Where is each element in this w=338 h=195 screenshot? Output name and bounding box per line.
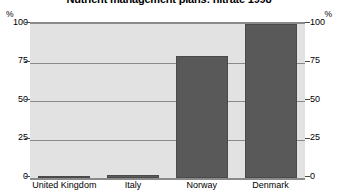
bar-italy [107,175,159,178]
chart-figure: Nutrient management plans: nitrate 1998 … [0,0,338,195]
y-tick-mark-left-100 [25,22,30,23]
x-axis-label-italy: Italy [99,180,168,191]
bar-united-kingdom [38,176,90,179]
x-axis-label-united-kingdom: United Kingdom [30,180,99,191]
y-tick-label-right-50: 50 [310,95,334,104]
y-tick-mark-right-75 [305,61,310,62]
y-tick-mark-left-25 [25,138,30,139]
y-tick-mark-right-50 [305,99,310,100]
y-tick-label-right-100: 100 [310,18,334,27]
x-axis-category-labels: United KingdomItalyNorwayDenmark [30,180,305,194]
y-tick-label-right-0: 0 [310,172,334,181]
bar-denmark [245,24,297,178]
bar-series [30,24,305,178]
y-tick-mark-right-25 [305,138,310,139]
y-tick-mark-left-0 [25,176,30,177]
y-tick-mark-right-0 [305,176,310,177]
y-tick-mark-right-100 [305,22,310,23]
y-tick-label-right-25: 25 [310,133,334,142]
bar-norway [176,56,228,178]
x-axis-label-norway: Norway [168,180,237,191]
y-tick-mark-left-50 [25,99,30,100]
chart-title: Nutrient management plans: nitrate 1998 [0,0,338,5]
y-tick-mark-left-75 [25,61,30,62]
x-axis-label-denmark: Denmark [236,180,305,191]
y-tick-label-right-75: 75 [310,56,334,65]
plot-area [30,22,305,180]
